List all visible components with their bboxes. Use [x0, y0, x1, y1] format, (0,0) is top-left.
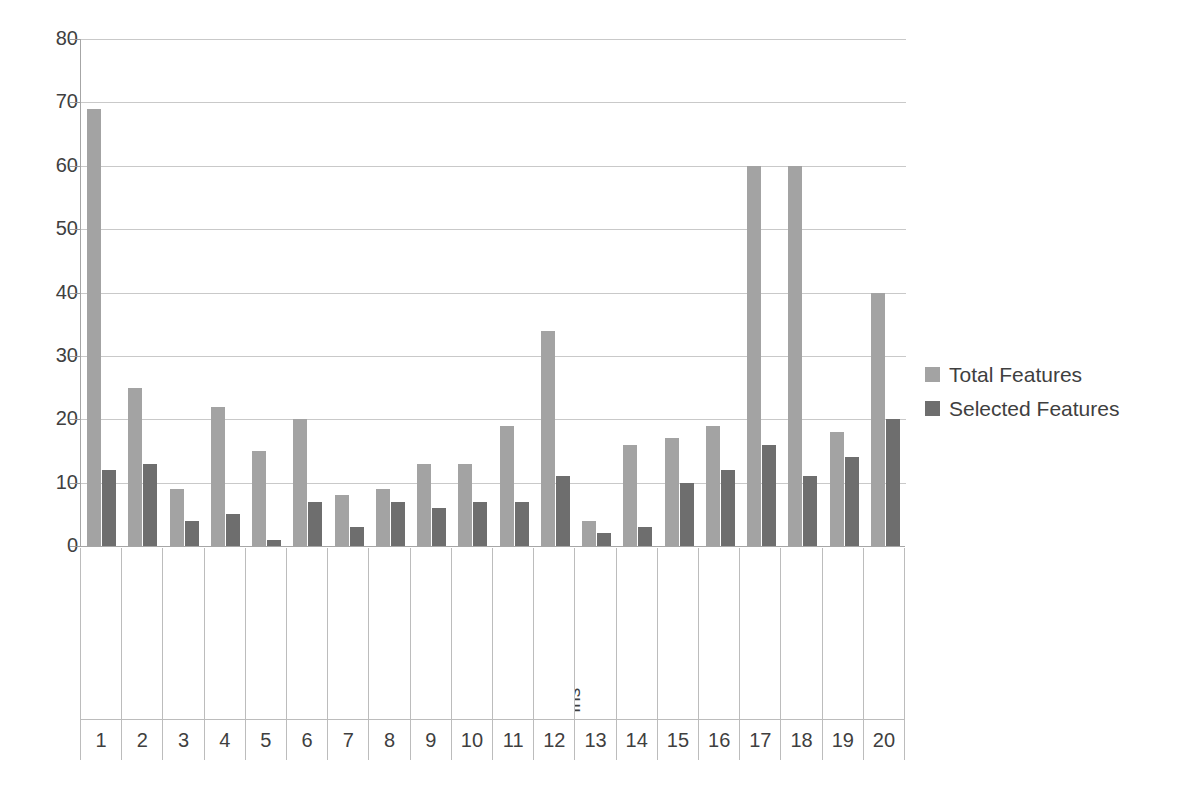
- bar-total-features[interactable]: [87, 109, 101, 546]
- bar-group: [535, 39, 576, 546]
- x-axis-name-cell: Autos: [122, 548, 162, 720]
- bar-group: [824, 39, 865, 546]
- bar-total-features[interactable]: [500, 426, 514, 546]
- x-axis-index-label: 9: [411, 720, 451, 760]
- bar-total-features[interactable]: [623, 445, 637, 546]
- x-axis-index-label: 19: [823, 720, 863, 760]
- x-axis-column: Breast Cancer3: [163, 548, 204, 760]
- bar-selected-features[interactable]: [102, 470, 116, 546]
- x-axis-index-label: 2: [122, 720, 162, 760]
- bar-selected-features[interactable]: [556, 476, 570, 546]
- x-axis-column: Primary Tumor15: [658, 548, 699, 760]
- bar-selected-features[interactable]: [432, 508, 446, 546]
- bar-group: [452, 39, 493, 546]
- bar-selected-features[interactable]: [267, 540, 281, 546]
- bar-total-features[interactable]: [170, 489, 184, 546]
- x-axis-index-label: 14: [617, 720, 657, 760]
- legend-label: Total Features: [949, 364, 1082, 385]
- bar-selected-features[interactable]: [762, 445, 776, 546]
- x-axis-index-label: 13: [575, 720, 615, 760]
- bar-total-features[interactable]: [293, 419, 307, 546]
- x-axis-name-cell: Segment: [699, 548, 739, 720]
- legend-swatch-selected-icon: [925, 401, 940, 416]
- bar-total-features[interactable]: [541, 331, 555, 546]
- bar-selected-features[interactable]: [721, 470, 735, 546]
- x-axis-label-table: Audiology1Autos2Breast Cancer3Colic4Cred…: [80, 548, 905, 760]
- x-axis-index-label: 11: [493, 720, 533, 760]
- bar-total-features[interactable]: [252, 451, 266, 546]
- x-axis-index-label: 8: [369, 720, 409, 760]
- x-axis-column: Hepatitis11: [493, 548, 534, 760]
- x-axis-index-label: 6: [287, 720, 327, 760]
- bar-series-container: [81, 39, 906, 546]
- y-axis-tick-label: 10: [22, 472, 78, 492]
- bar-selected-features[interactable]: [350, 527, 364, 546]
- bar-selected-features[interactable]: [226, 514, 240, 546]
- bar-selected-features[interactable]: [515, 502, 529, 546]
- x-axis-category-label: Iris: [575, 688, 582, 713]
- bar-group: [287, 39, 328, 546]
- x-axis-column: Heart Statlog10: [452, 548, 493, 760]
- bar-selected-features[interactable]: [185, 521, 199, 546]
- bar-group: [659, 39, 700, 546]
- x-axis-name-cell: Sonar: [740, 548, 780, 720]
- bar-total-features[interactable]: [871, 293, 885, 547]
- bar-group: [329, 39, 370, 546]
- bar-selected-features[interactable]: [308, 502, 322, 546]
- x-axis-name-cell: Ionosphere: [534, 548, 574, 720]
- bar-total-features[interactable]: [665, 438, 679, 546]
- legend-swatch-total-icon: [925, 367, 940, 382]
- bar-total-features[interactable]: [211, 407, 225, 546]
- bar-group: [576, 39, 617, 546]
- bar-total-features[interactable]: [335, 495, 349, 546]
- bar-total-features[interactable]: [788, 166, 802, 546]
- bar-total-features[interactable]: [747, 166, 761, 546]
- chart-root: 01020304050607080 Audiology1Autos2Breast…: [0, 0, 1177, 785]
- x-axis-name-cell: Credit -A: [246, 548, 286, 720]
- x-axis-index-label: 3: [163, 720, 203, 760]
- x-axis-name-cell: Credit Germany: [287, 548, 327, 720]
- bar-total-features[interactable]: [376, 489, 390, 546]
- x-axis-name-cell: Labor: [617, 548, 657, 720]
- bar-selected-features[interactable]: [597, 533, 611, 546]
- bar-selected-features[interactable]: [845, 457, 859, 546]
- x-axis-name-cell: Breast Cancer: [163, 548, 203, 720]
- y-axis-tick-label: 0: [22, 535, 78, 555]
- bar-group: [617, 39, 658, 546]
- bar-selected-features[interactable]: [803, 476, 817, 546]
- bar-total-features[interactable]: [128, 388, 142, 546]
- x-axis-column: Vehicle19: [823, 548, 864, 760]
- bar-group: [741, 39, 782, 546]
- x-axis-index-label: 10: [452, 720, 492, 760]
- bar-total-features[interactable]: [417, 464, 431, 546]
- y-axis-tick-label: 20: [22, 408, 78, 428]
- bar-selected-features[interactable]: [680, 483, 694, 546]
- x-axis-name-cell: Audiology: [81, 548, 121, 720]
- legend-item[interactable]: Total Features: [925, 357, 1165, 391]
- bar-selected-features[interactable]: [638, 527, 652, 546]
- bar-selected-features[interactable]: [473, 502, 487, 546]
- bar-group: [782, 39, 823, 546]
- x-axis-name-cell: Diabetes: [328, 548, 368, 720]
- bar-group: [205, 39, 246, 546]
- x-axis-name-cell: Colic: [205, 548, 245, 720]
- x-axis-column: Labor14: [617, 548, 658, 760]
- x-axis-name-cell: Waveform: [864, 548, 904, 720]
- bar-selected-features[interactable]: [391, 502, 405, 546]
- x-axis-name-cell: Iris: [575, 548, 615, 720]
- bar-total-features[interactable]: [830, 432, 844, 546]
- bar-selected-features[interactable]: [143, 464, 157, 546]
- y-axis-tick-label: 40: [22, 282, 78, 302]
- bar-total-features[interactable]: [706, 426, 720, 546]
- legend-item[interactable]: Selected Features: [925, 391, 1165, 425]
- bar-total-features[interactable]: [458, 464, 472, 546]
- x-axis-name-cell: Hepatitis: [493, 548, 533, 720]
- x-axis-name-cell: Vehicle: [823, 548, 863, 720]
- bar-selected-features[interactable]: [886, 419, 900, 546]
- bar-total-features[interactable]: [582, 521, 596, 546]
- x-axis-column: Credit -A5: [246, 548, 287, 760]
- x-axis-index-label: 1: [81, 720, 121, 760]
- x-axis-index-label: 20: [864, 720, 904, 760]
- x-axis-column: Waveform20: [864, 548, 905, 760]
- y-axis-tick-label: 80: [22, 28, 78, 48]
